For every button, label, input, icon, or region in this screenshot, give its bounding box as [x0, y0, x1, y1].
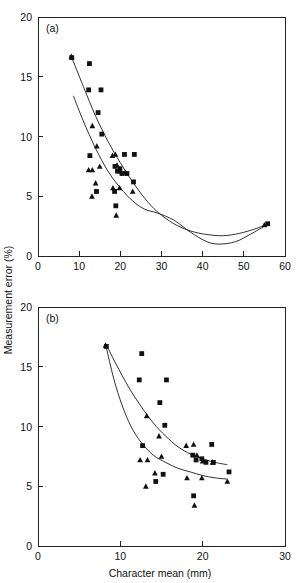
x-tick-label: 30	[279, 550, 291, 562]
data-point-square	[194, 458, 199, 463]
data-point-square	[94, 189, 99, 194]
data-point-square	[132, 152, 137, 157]
data-point-square	[139, 351, 144, 356]
data-point-triangle	[159, 453, 165, 458]
data-point-triangle	[89, 167, 95, 172]
fit-curve-upper-fit	[107, 346, 227, 464]
y-tick-label: 20	[20, 301, 32, 313]
x-tick-label: 20	[114, 260, 126, 272]
x-tick-label: 0	[35, 260, 41, 272]
data-point-square	[162, 423, 167, 428]
data-point-square	[86, 87, 91, 92]
data-point-square	[122, 152, 127, 157]
panel-b: 010203005101520(b)	[20, 301, 291, 562]
data-point-triangle	[89, 123, 95, 128]
data-point-triangle	[191, 441, 197, 446]
data-point-square	[227, 470, 232, 475]
x-tick-label: 30	[156, 260, 168, 272]
data-point-triangle	[93, 180, 99, 185]
data-point-square	[153, 479, 158, 484]
data-point-triangle	[184, 475, 190, 480]
data-point-triangle	[117, 185, 123, 190]
panel-a: 010203040506005101520(a)	[20, 11, 291, 272]
data-point-square	[161, 472, 166, 477]
data-point-square	[131, 180, 136, 185]
data-point-triangle	[113, 212, 119, 217]
y-tick-label: 5	[26, 190, 32, 202]
panel-tag: (b)	[46, 312, 59, 324]
y-tick-label: 10	[20, 421, 32, 433]
fit-curve-upper-fit	[71, 56, 268, 235]
data-point-square	[140, 443, 145, 448]
x-tick-label: 10	[114, 550, 126, 562]
x-tick-label: 50	[238, 260, 250, 272]
data-point-triangle	[113, 151, 119, 156]
y-tick-label: 0	[26, 540, 32, 552]
y-tick-label: 0	[26, 250, 32, 262]
data-point-triangle	[192, 502, 198, 507]
y-tick-label: 15	[20, 71, 32, 83]
data-point-triangle	[143, 483, 149, 488]
data-point-square	[87, 61, 92, 66]
x-tick-label: 60	[279, 260, 291, 272]
data-point-triangle	[89, 193, 95, 198]
figure-container: 010203040506005101520(a) 010203005101520…	[0, 0, 300, 583]
data-point-square	[137, 378, 142, 383]
data-point-square	[87, 153, 92, 158]
y-tick-label: 15	[20, 361, 32, 373]
y-axis-title: Measurement error (%)	[2, 246, 14, 355]
y-tick-label: 10	[20, 131, 32, 143]
x-tick-label: 40	[197, 260, 209, 272]
data-point-square	[99, 87, 104, 92]
data-point-triangle	[152, 470, 158, 475]
data-point-triangle	[94, 143, 100, 148]
plot-frame	[38, 17, 285, 256]
data-point-triangle	[144, 413, 150, 418]
x-tick-label: 20	[197, 550, 209, 562]
scientific-figure: 010203040506005101520(a) 010203005101520…	[0, 0, 300, 583]
x-axis-title: Character mean (mm)	[109, 567, 212, 579]
x-tick-label: 10	[73, 260, 85, 272]
data-point-triangle	[145, 457, 151, 462]
data-point-triangle	[183, 443, 189, 448]
data-point-square	[96, 110, 101, 115]
data-point-square	[191, 493, 196, 498]
panel-tag: (a)	[46, 22, 59, 34]
y-tick-label: 5	[26, 480, 32, 492]
data-point-square	[209, 442, 214, 447]
data-point-triangle	[97, 163, 103, 168]
data-point-square	[157, 400, 162, 405]
data-point-triangle	[156, 433, 162, 438]
data-point-triangle	[137, 457, 143, 462]
fit-curve-lower-fit	[106, 348, 227, 479]
data-point-square	[99, 132, 104, 137]
plot-frame	[38, 307, 285, 546]
data-point-triangle	[110, 185, 116, 190]
data-point-square	[164, 378, 169, 383]
x-tick-label: 0	[35, 550, 41, 562]
data-point-triangle	[130, 188, 136, 193]
y-tick-label: 20	[20, 11, 32, 23]
data-point-square	[113, 203, 118, 208]
